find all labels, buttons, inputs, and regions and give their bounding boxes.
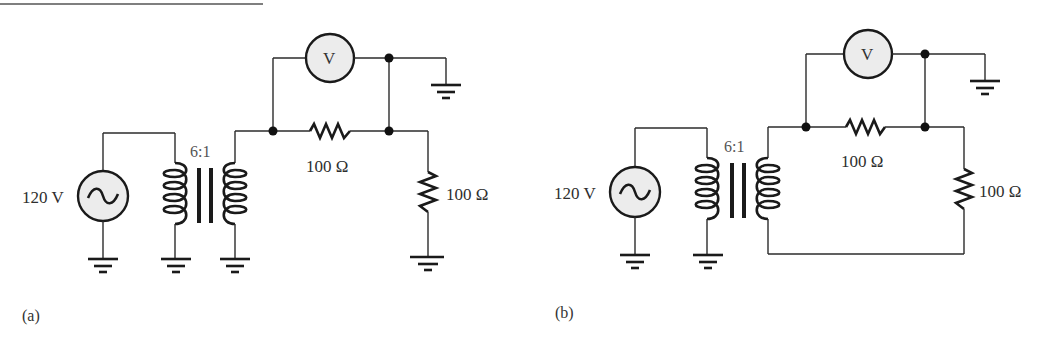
circuit-a: 120 V 6:1 [22, 34, 488, 325]
ground-icon [88, 259, 118, 272]
transformer-core-b [732, 163, 744, 218]
turns-ratio-label-b: 6:1 [724, 138, 744, 155]
ground-icon [220, 259, 250, 272]
source-voltage-label-b: 120 V [554, 184, 596, 203]
source-voltage-label-a: 120 V [22, 188, 64, 207]
voltmeter-b [806, 30, 985, 127]
junction-node [385, 127, 394, 136]
load-resistor-label-a: 100 Ω [446, 185, 488, 204]
junction-node [385, 54, 394, 63]
ground-icon [410, 257, 444, 270]
ground-icon [970, 81, 1000, 94]
circuit-b: 120 V 6:1 [554, 30, 1021, 322]
voltmeter-symbol-a: V [323, 49, 336, 68]
series-resistor-label-b: 100 Ω [841, 152, 883, 171]
load-resistor-label-b: 100 Ω [979, 182, 1021, 201]
ground-icon [161, 259, 191, 272]
transformer-primary-b [696, 128, 719, 254]
ground-icon [693, 255, 723, 268]
series-resistor-b [806, 120, 964, 134]
ac-source-a [78, 133, 175, 258]
transformer-primary-a [164, 133, 187, 258]
load-resistor-a [420, 131, 436, 256]
ground-icon [431, 85, 461, 98]
series-resistor-label-a: 100 Ω [306, 157, 348, 176]
ac-source-b [610, 128, 707, 254]
voltmeter-a [273, 34, 446, 131]
load-resistor-b [956, 127, 972, 254]
transformer-secondary-a [224, 131, 273, 258]
panel-label-a: (a) [22, 307, 40, 325]
circuit-figure: 120 V 6:1 [0, 0, 1045, 350]
series-resistor-a [273, 124, 428, 138]
transformer-core-a [199, 168, 211, 223]
panel-label-b: (b) [555, 304, 574, 322]
transformer-secondary-b [757, 127, 806, 254]
voltmeter-symbol-b: V [861, 45, 874, 64]
junction-node [802, 123, 811, 132]
junction-node [269, 127, 278, 136]
ground-icon [620, 255, 650, 268]
turns-ratio-label-a: 6:1 [190, 143, 210, 160]
junction-node [921, 50, 930, 59]
junction-node [921, 123, 930, 132]
